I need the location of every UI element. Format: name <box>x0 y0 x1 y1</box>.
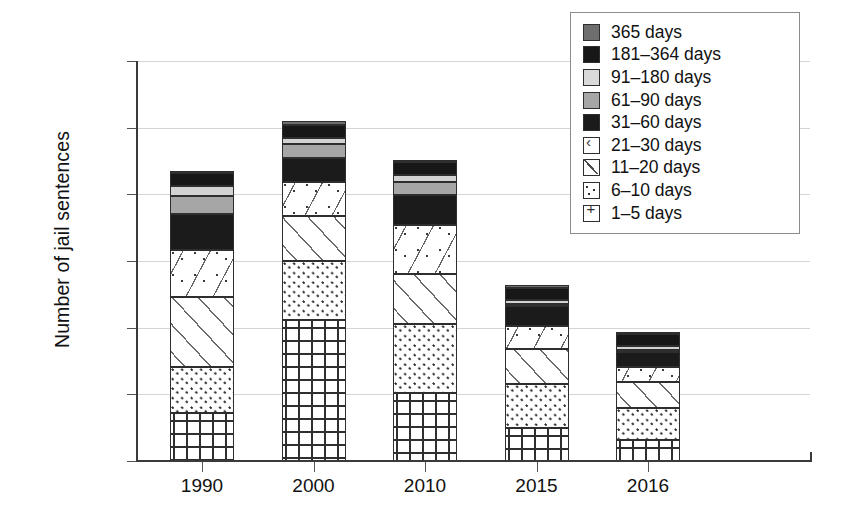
legend-item: 181–364 days <box>583 44 789 67</box>
x-tick-label: 1990 <box>142 475 262 497</box>
y-axis-title: Number of jail sentences <box>51 60 74 420</box>
legend-item: 1–5 days <box>583 202 789 225</box>
bar-segment <box>170 214 234 250</box>
bar-segment <box>393 225 457 274</box>
bar-segment <box>616 332 680 334</box>
bar-segment <box>616 350 680 352</box>
legend-swatch-icon <box>583 182 600 199</box>
bar-segment <box>505 304 569 306</box>
x-tick-mark <box>314 461 315 472</box>
y-axis-line <box>136 61 138 462</box>
bar-segment <box>505 288 569 301</box>
bar-segment <box>616 408 680 440</box>
gridline <box>136 394 810 395</box>
y-tick-mark <box>127 61 136 62</box>
bar-segment <box>505 384 569 429</box>
legend-swatch-icon <box>583 46 600 63</box>
y-tick-mark <box>127 461 136 462</box>
bar-segment <box>282 320 346 461</box>
bar-segment <box>170 196 234 215</box>
legend-label: 11–20 days <box>611 157 700 178</box>
bar-segment <box>393 393 457 461</box>
bar-segment <box>282 261 346 320</box>
bar-segment <box>282 125 346 138</box>
x-tick-mark <box>537 461 538 472</box>
legend-swatch-icon <box>583 114 600 131</box>
bar-segment <box>505 300 569 304</box>
y-tick-mark <box>127 194 136 195</box>
bar-segment <box>616 352 680 367</box>
legend-item: 91–180 days <box>583 66 789 89</box>
bar-segment <box>505 428 569 461</box>
legend-label: 21–30 days <box>611 135 702 156</box>
legend-swatch-icon <box>583 69 600 86</box>
y-tick-mark <box>127 328 136 329</box>
bar-segment <box>616 440 680 461</box>
bar-segment <box>170 186 234 195</box>
bar-segment <box>505 349 569 384</box>
x-tick-mark <box>648 461 649 472</box>
legend-label: 6–10 days <box>611 180 692 201</box>
bar-segment <box>616 346 680 349</box>
bar-segment <box>282 216 346 261</box>
y-tick-mark <box>127 394 136 395</box>
legend-item: 31–60 days <box>583 111 789 134</box>
legend-label: 1–5 days <box>611 203 682 224</box>
gridline <box>136 261 810 262</box>
bar-segment <box>616 367 680 382</box>
bar-segment <box>170 297 234 367</box>
bar-segment <box>170 367 234 413</box>
bar-segment <box>282 138 346 143</box>
stacked-bar-2016 <box>616 332 680 461</box>
legend-label: 91–180 days <box>611 67 711 88</box>
legend-swatch-icon <box>583 137 600 154</box>
bar-segment <box>393 195 457 225</box>
legend-item: 11–20 days <box>583 157 789 180</box>
bar-segment <box>282 121 346 125</box>
legend-swatch-icon <box>583 24 600 41</box>
bar-segment <box>170 171 234 173</box>
legend-swatch-icon <box>583 205 600 222</box>
bar-segment <box>505 285 569 288</box>
legend-label: 181–364 days <box>611 44 721 65</box>
bar-segment <box>393 162 457 175</box>
legend-item: 6–10 days <box>583 179 789 202</box>
x-tick-label: 2000 <box>254 475 374 497</box>
bar-segment <box>505 326 569 349</box>
y-tick-mark <box>127 128 136 129</box>
legend-swatch-icon <box>583 159 600 176</box>
stacked-bar-2000 <box>282 121 346 461</box>
legend-item: 61–90 days <box>583 89 789 112</box>
bar-segment <box>282 182 346 215</box>
stacked-bar-2015 <box>505 286 569 461</box>
y-tick-mark <box>127 261 136 262</box>
legend-label: 61–90 days <box>611 90 702 111</box>
legend-item: 21–30 days <box>583 134 789 157</box>
bar-segment <box>505 306 569 325</box>
bar-segment <box>393 324 457 393</box>
legend: 365 days181–364 days91–180 days61–90 day… <box>570 12 800 234</box>
bar-segment <box>282 144 346 158</box>
x-axis-line <box>136 460 812 462</box>
bar-segment <box>282 158 346 183</box>
stacked-bar-1990 <box>170 172 234 461</box>
x-tick-mark <box>425 461 426 472</box>
bar-segment <box>616 382 680 407</box>
x-tick-mark <box>202 461 203 472</box>
x-tick-label: 2015 <box>477 475 597 497</box>
gridline <box>136 328 810 329</box>
x-tick-label: 2016 <box>588 475 708 497</box>
legend-label: 31–60 days <box>611 112 702 133</box>
legend-swatch-icon <box>583 92 600 109</box>
legend-item: 365 days <box>583 21 789 44</box>
bar-segment <box>393 182 457 195</box>
bar-segment <box>170 250 234 297</box>
bar-segment <box>170 173 234 186</box>
x-tick-label: 2010 <box>365 475 485 497</box>
stacked-bar-2010 <box>393 161 457 461</box>
bar-segment <box>393 175 457 182</box>
bar-segment <box>170 413 234 461</box>
bar-segment <box>616 334 680 346</box>
bar-segment <box>393 160 457 162</box>
legend-label: 365 days <box>611 22 682 43</box>
